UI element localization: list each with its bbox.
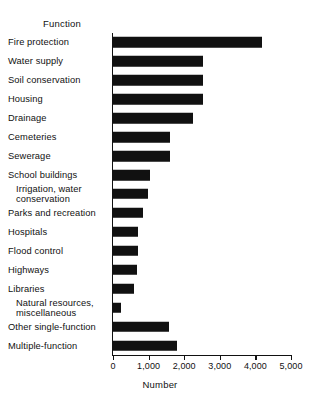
bar-row-label: Highways [8, 265, 112, 275]
bar-row-label: Other single-function [8, 321, 112, 331]
bar-row-label: Irrigation, water conservation [16, 184, 116, 205]
bar [113, 265, 137, 276]
bar-row-label: Fire protection [8, 37, 112, 47]
bar-row-label: School buildings [8, 170, 112, 180]
bar [113, 132, 170, 143]
bar [113, 340, 177, 351]
bar-row-label: Multiple-function [8, 340, 112, 350]
x-tick [291, 355, 292, 360]
bar [113, 75, 203, 86]
bar-row: Parks and recreation [0, 203, 320, 222]
bar-row-label: Water supply [8, 56, 112, 66]
bar-row: Natural resources, miscellaneous [0, 298, 320, 317]
bar-row: Flood control [0, 241, 320, 260]
bar-row: Water supply [0, 52, 320, 71]
bar-row-label: Drainage [8, 113, 112, 123]
bar-row: Other single-function [0, 317, 320, 336]
bar [113, 321, 169, 332]
bar-row: Highways [0, 260, 320, 279]
plot-area: Fire protectionWater supplySoil conserva… [0, 33, 320, 355]
bar-row: Cemeteries [0, 128, 320, 147]
bar [113, 227, 138, 238]
x-tick-label: 3,000 [208, 361, 231, 371]
x-tick-label: 4,000 [244, 361, 267, 371]
bar-row: Sewerage [0, 147, 320, 166]
category-column-header: Function [43, 18, 81, 29]
bar-row: Fire protection [0, 33, 320, 52]
bar-row: Housing [0, 90, 320, 109]
bar-row-label: Sewerage [8, 151, 112, 161]
bar [113, 94, 203, 105]
x-tick-label: 2,000 [173, 361, 196, 371]
x-axis-line [112, 355, 291, 356]
x-tick-label: 0 [110, 361, 115, 371]
bar [113, 151, 170, 162]
bar-row-label: Natural resources, miscellaneous [16, 297, 116, 318]
bar-row-label: Parks and recreation [8, 208, 112, 218]
bar-row: Drainage [0, 109, 320, 128]
bar-row: School buildings [0, 166, 320, 185]
x-axis-label: Number [0, 379, 320, 390]
bar [113, 189, 148, 200]
bar [113, 302, 121, 313]
x-tick-label: 1,000 [137, 361, 160, 371]
x-tick [149, 355, 150, 360]
bar [113, 113, 193, 124]
bar [113, 208, 143, 219]
bar-row-label: Flood control [8, 246, 112, 256]
bar-row-label: Soil conservation [8, 75, 112, 85]
bar-row: Irrigation, water conservation [0, 185, 320, 204]
x-tick [255, 355, 256, 360]
x-axis: 01,0002,0003,0004,0005,000 Number [0, 355, 320, 401]
bar [113, 56, 203, 67]
x-tick [220, 355, 221, 360]
bar-row: Soil conservation [0, 71, 320, 90]
bar [113, 37, 262, 48]
x-tick [184, 355, 185, 360]
bar-row-label: Hospitals [8, 227, 112, 237]
x-tick-label: 5,000 [279, 361, 302, 371]
bar [113, 283, 134, 294]
bar-row-label: Libraries [8, 284, 112, 294]
bar-row-label: Cemeteries [8, 132, 112, 142]
bar [113, 170, 150, 181]
bar-row: Multiple-function [0, 336, 320, 355]
bar [113, 246, 138, 257]
x-tick [113, 355, 114, 360]
bar-row-label: Housing [8, 94, 112, 104]
bar-chart-figure: Function Fire protectionWater supplySoil… [0, 0, 320, 401]
bar-row: Hospitals [0, 222, 320, 241]
bar-row: Libraries [0, 279, 320, 298]
